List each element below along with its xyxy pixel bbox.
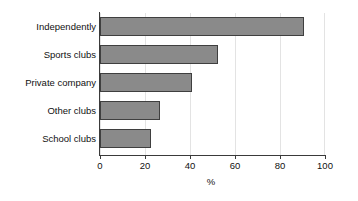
bar-independently[interactable] xyxy=(100,17,304,36)
y-tick-school-clubs: School clubs xyxy=(0,129,96,148)
bar-other-clubs[interactable] xyxy=(100,101,160,120)
bar-chart: Independently Sports clubs Private compa… xyxy=(0,0,358,201)
x-axis-title: % xyxy=(0,176,358,187)
x-tick-label-100: 100 xyxy=(310,160,340,172)
x-axis-line xyxy=(99,155,326,156)
y-tick-label: School clubs xyxy=(3,129,96,148)
x-tick-60 xyxy=(235,155,236,159)
x-tick-40 xyxy=(190,155,191,159)
y-axis-line xyxy=(99,12,100,156)
x-tick-label-40: 40 xyxy=(175,160,205,172)
y-tick-independently: Independently xyxy=(0,17,96,36)
x-tick-20 xyxy=(145,155,146,159)
bar-sports-clubs[interactable] xyxy=(100,45,218,64)
y-tick-other-clubs: Other clubs xyxy=(0,101,96,120)
y-tick-private-company: Private company xyxy=(0,73,96,92)
y-tick-sports-clubs: Sports clubs xyxy=(0,45,96,64)
y-tick-label: Other clubs xyxy=(3,101,96,120)
gridline-100 xyxy=(324,13,325,155)
x-tick-label-0: 0 xyxy=(85,160,115,172)
y-tick-label: Private company xyxy=(3,73,96,92)
x-tick-label-80: 80 xyxy=(265,160,295,172)
y-tick-label: Sports clubs xyxy=(3,45,96,64)
y-tick-label: Independently xyxy=(3,17,96,36)
x-tick-label-20: 20 xyxy=(130,160,160,172)
plot-area xyxy=(100,13,325,155)
bar-private-company[interactable] xyxy=(100,73,192,92)
x-tick-label-60: 60 xyxy=(220,160,250,172)
x-tick-100 xyxy=(325,155,326,159)
x-tick-0 xyxy=(100,155,101,159)
bar-school-clubs[interactable] xyxy=(100,129,151,148)
x-tick-80 xyxy=(280,155,281,159)
x-axis-title-text: % xyxy=(207,176,215,187)
